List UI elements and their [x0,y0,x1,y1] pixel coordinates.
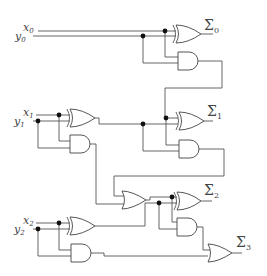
junction-dot [170,195,175,200]
and-gate-0 [178,52,198,70]
wire-y2-to-and2a [38,229,71,256]
input-x1-label: x1 [23,106,34,120]
wire-p1-to-and1b [143,124,179,151]
or-gate-2 [122,191,146,209]
wire-and2a-out [91,253,208,256]
wire-x0-to-and0 [165,31,178,57]
xor-gate-1b [176,112,204,130]
wire-xor2a-out [95,203,177,226]
xor-gate-1a [67,109,95,127]
input-x2-label: x2 [23,214,34,228]
junction-dot [157,201,162,206]
xor-gate-2a [67,217,95,235]
wire-y0-to-and0 [143,36,178,63]
xor-gate-0 [173,25,201,43]
output-sum2-label: Σ2 [204,182,219,200]
junction-dot [141,122,146,127]
carry2-section [122,191,177,222]
output-sum0-label: Σ0 [204,17,219,35]
wire-y1-to-and1a [38,121,70,148]
junction-dot [36,119,41,124]
junction-dot [36,227,41,232]
and-gate-2b [177,218,197,236]
wire-and2b-out [197,227,210,250]
junction-dot [57,113,62,118]
wire-c0-to-and1b [166,118,179,145]
junction-dot [141,34,146,39]
or-gate-3 [208,244,232,262]
xor-gate-2b [174,192,201,210]
junction-dot [57,221,62,226]
and-gate-1a [70,135,90,153]
adder-circuit: y0 x0 Σ0 y1 x1 [0,0,267,276]
wire-x1-to-and1a [59,115,70,141]
and-gate-1b [179,140,199,158]
output-sum3-label: Σ3 [236,234,251,252]
wire-and1a-out [90,144,124,204]
input-x0-label: x0 [23,21,34,35]
wire-p2-to-and2b [159,203,177,229]
and-gate-2a [71,244,91,262]
junction-dot [163,29,168,34]
junction-dot [164,116,169,121]
bit1-section: y1 x1 Σ1 [13,103,224,204]
output-sum1-label: Σ1 [207,103,222,121]
bit0-section: y0 x0 Σ0 [14,17,222,118]
